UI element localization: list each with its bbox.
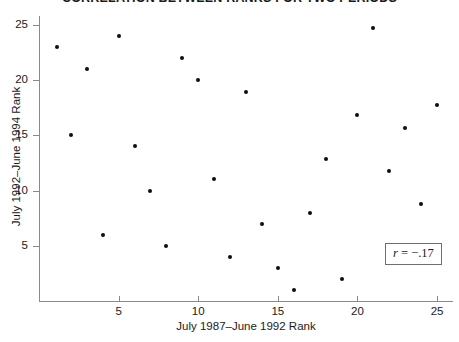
data-point — [244, 90, 248, 94]
data-point — [148, 189, 152, 193]
y-axis-tick-label: 25 — [0, 19, 28, 31]
data-point — [196, 78, 200, 82]
y-axis-tick-label: 15 — [0, 129, 28, 141]
data-point — [212, 177, 216, 181]
x-axis-tick-label: 10 — [183, 305, 213, 317]
y-axis-tick — [33, 25, 39, 26]
data-point — [324, 157, 328, 161]
data-point — [228, 255, 232, 259]
data-point — [133, 144, 137, 148]
chart-title: CORRELATION BETWEEN RANKS FOR TWO PERIOD… — [0, 0, 459, 3]
data-point — [276, 266, 280, 270]
x-axis-tick — [278, 296, 279, 302]
data-point — [85, 67, 89, 71]
y-axis-tick-label: 20 — [0, 74, 28, 86]
data-point — [260, 222, 264, 226]
correlation-annotation: r = −.17 — [385, 243, 442, 265]
data-point — [419, 202, 423, 206]
data-point — [308, 211, 312, 215]
y-axis-tick-label: 5 — [0, 240, 28, 252]
x-axis-tick — [198, 296, 199, 302]
data-point — [117, 34, 121, 38]
data-point — [292, 288, 296, 292]
x-axis-tick-label: 5 — [104, 305, 134, 317]
data-point — [101, 233, 105, 237]
x-axis-label: July 1987–June 1992 Rank — [39, 320, 453, 333]
data-point — [403, 126, 407, 130]
data-point — [387, 169, 391, 173]
y-axis-tick — [33, 80, 39, 81]
data-point — [180, 56, 184, 60]
data-point — [164, 244, 168, 248]
data-point — [355, 113, 359, 117]
y-axis-tick — [33, 191, 39, 192]
x-axis-tick — [357, 296, 358, 302]
x-axis-tick-label: 20 — [342, 305, 372, 317]
y-axis-tick — [33, 135, 39, 136]
data-point — [435, 103, 439, 107]
data-point — [340, 277, 344, 281]
x-axis-tick — [119, 296, 120, 302]
data-point — [371, 26, 375, 30]
x-axis-tick-label: 25 — [422, 305, 452, 317]
x-axis-tick-label: 15 — [263, 305, 293, 317]
data-point — [69, 133, 73, 137]
y-axis-label: July 1992–June 1994 Rank — [10, 77, 23, 237]
scatter-plot-figure: CORRELATION BETWEEN RANKS FOR TWO PERIOD… — [0, 0, 459, 342]
correlation-value: = −.17 — [398, 246, 434, 260]
y-axis-tick-label: 10 — [0, 185, 28, 197]
data-point — [55, 45, 59, 49]
y-axis-tick — [33, 246, 39, 247]
x-axis-tick — [437, 296, 438, 302]
